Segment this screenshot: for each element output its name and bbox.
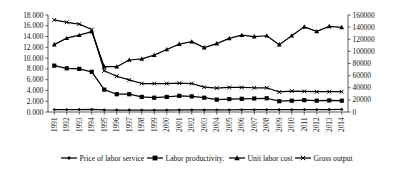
legend-item-4[interactable]: Gross output (295, 154, 353, 163)
x-axis-tick-label: 2010 (288, 117, 296, 132)
x-axis-tick-label: 2000 (163, 117, 171, 132)
left-axis-tick-labels: 0.0002.0004.0006.0008.00010.00012.00014.… (23, 11, 44, 117)
left-axis-tick-label: 4.000 (27, 86, 44, 95)
series-1 (53, 108, 344, 112)
legend-item-3[interactable]: Unit labor cost (229, 154, 294, 163)
series-3 (52, 24, 344, 69)
x-axis-tick-label: 2013 (326, 117, 334, 132)
right-axis-tick-label: 0 (353, 108, 357, 117)
left-axis-tick-label: 2.000 (27, 97, 44, 106)
right-axis-tick-label: 40000 (353, 83, 372, 92)
right-axis-tick-label: 160000 (353, 11, 375, 20)
x-axis-tick-label: 1996 (113, 117, 121, 132)
chart-canvas: 0.0002.0004.0006.0008.00010.00012.00014.… (0, 0, 402, 171)
x-axis-tick-label: 2008 (263, 117, 271, 132)
x-axis-tick-label: 2006 (238, 117, 246, 132)
x-axis-tick-label: 2009 (276, 117, 284, 132)
right-axis-tick-label: 120000 (353, 35, 375, 44)
x-axis-tick-label: 1994 (88, 117, 96, 132)
legend-label: Gross output (314, 154, 354, 163)
x-axis-tick-label: 2014 (338, 117, 346, 132)
x-axis-tick-label: 1998 (138, 117, 146, 132)
x-axis-tick-label: 1997 (126, 117, 134, 132)
x-axis-tick-label: 2012 (313, 117, 321, 132)
x-axis-tick-label: 2011 (301, 117, 309, 132)
left-axis-tick-label: 0.000 (27, 108, 44, 117)
chart-legend: Price of labor serviceLabor productivity… (61, 154, 353, 163)
legend-label: Price of labor service (80, 154, 145, 163)
x-axis-tick-label: 1992 (63, 117, 71, 132)
x-axis-tick-label: 1995 (101, 117, 109, 132)
right-axis-tick-labels: 0200004000060000800001000001200001400001… (353, 11, 375, 117)
series-markers (52, 24, 344, 69)
right-axis-tick-label: 80000 (353, 59, 372, 68)
chart-container: 0.0002.0004.0006.0008.00010.00012.00014.… (0, 0, 402, 171)
left-axis-tick-label: 12.000 (23, 43, 44, 52)
x-axis-tick-label: 1991 (51, 117, 59, 132)
right-axis-tick-label: 20000 (353, 95, 372, 104)
left-axis-tick-label: 18.000 (23, 11, 44, 20)
series-layer (52, 18, 344, 112)
x-axis-tick-label: 1999 (151, 117, 159, 132)
left-axis-tick-label: 16.000 (23, 21, 44, 30)
x-axis-tick-label: 2007 (251, 117, 259, 132)
left-axis-tick-label: 10.000 (23, 54, 44, 63)
left-axis-tick-label: 14.000 (23, 32, 44, 41)
plot-area: 0.0002.0004.0006.0008.00010.00012.00014.… (23, 11, 375, 132)
left-axis-tick-label: 8.000 (27, 64, 44, 73)
x-axis-tick-label: 2005 (226, 117, 234, 132)
right-axis-tick-label: 60000 (353, 71, 372, 80)
legend-label: Labor productivity. (166, 154, 225, 163)
legend-item-1[interactable]: Price of labor service (61, 154, 145, 163)
x-axis-tick-label: 2004 (213, 117, 221, 132)
x-axis-tick-label: 1993 (76, 117, 84, 132)
right-axis-tick-label: 100000 (353, 47, 375, 56)
x-axis-tick-labels: 1991199219931994199519961997199819992000… (51, 117, 347, 132)
series-2 (52, 64, 344, 104)
legend-label: Unit labor cost (248, 154, 294, 163)
x-axis-tick-label: 2002 (188, 117, 196, 132)
left-axis-tick-label: 6.000 (27, 75, 44, 84)
legend-item-2[interactable]: Labor productivity. (147, 154, 224, 163)
right-axis-tick-label: 140000 (353, 23, 375, 32)
x-axis-tick-label: 2003 (201, 117, 209, 132)
x-axis-tick-label: 2001 (176, 117, 184, 132)
